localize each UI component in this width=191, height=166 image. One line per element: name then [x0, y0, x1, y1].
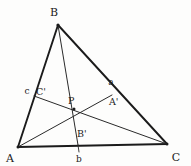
point-P-dot: [73, 108, 76, 111]
label-point-P: P: [68, 95, 75, 106]
vertex-C-dot: [166, 143, 169, 146]
vertex-A-dot: [17, 146, 20, 149]
label-point-A-prime: A': [108, 96, 118, 107]
label-side-b: b: [76, 154, 82, 164]
label-point-C-prime: C': [36, 86, 46, 97]
triangle-cevians-svg: B A C A' B' C' P a b c: [0, 0, 191, 166]
label-vertex-C: C: [172, 151, 180, 164]
side-AC: [18, 144, 167, 147]
label-vertex-A: A: [5, 152, 15, 165]
label-point-B-prime: B': [77, 128, 87, 139]
label-side-c: c: [24, 86, 29, 96]
label-vertex-B: B: [50, 6, 58, 19]
geometry-figure: B A C A' B' C' P a b c: [0, 0, 191, 166]
cevian-CC-prime: [34, 96, 167, 144]
vertex-B-dot: [56, 23, 59, 26]
label-side-a: a: [108, 77, 114, 87]
